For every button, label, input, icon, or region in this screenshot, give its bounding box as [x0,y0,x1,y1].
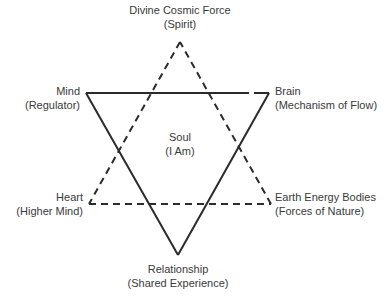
node-subtitle: (Higher Mind) [5,204,83,218]
node-heart: Heart (Higher Mind) [5,190,83,218]
node-relationship: Relationship (Shared Experience) [118,262,238,290]
node-title: Heart [5,190,83,204]
node-soul: Soul (I Am) [150,130,210,158]
node-subtitle: (Regulator) [10,98,80,112]
node-brain: Brain (Mechanism of Flow) [275,84,390,112]
edge-brain-relationship [178,93,269,255]
node-divine: Divine Cosmic Force (Spirit) [120,3,240,31]
edge-relationship-mind [86,93,178,255]
node-title: Earth Energy Bodies [275,190,390,204]
node-title: Relationship [118,262,238,276]
node-title: Divine Cosmic Force [120,3,240,17]
node-mind: Mind (Regulator) [10,84,80,112]
dashed-triangle [89,42,271,204]
node-subtitle: (Mechanism of Flow) [275,98,390,112]
node-subtitle: (Spirit) [120,17,240,31]
node-earth: Earth Energy Bodies (Forces of Nature) [275,190,390,218]
solid-triangle [86,93,269,255]
node-title: Mind [10,84,80,98]
node-subtitle: (I Am) [150,144,210,158]
node-title: Soul [150,130,210,144]
node-title: Brain [275,84,390,98]
node-subtitle: (Shared Experience) [118,276,238,290]
node-subtitle: (Forces of Nature) [275,204,390,218]
edge-earth-divine [180,42,271,204]
